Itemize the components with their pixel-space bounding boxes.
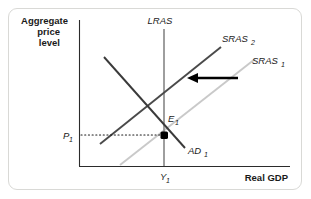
sras2-curve [100, 47, 221, 144]
sras2-label: SRAS [222, 33, 249, 44]
ad1-curve [104, 57, 185, 148]
ad1-label: AD [187, 145, 201, 156]
lras-label: LRAS [148, 15, 173, 26]
as-ad-diagram: Aggregate price level LRAS SRAS 2 SRAS 1… [0, 0, 311, 199]
y-axis-title-line3: level [39, 37, 60, 48]
sras2-label-group: SRAS 2 [222, 33, 255, 46]
equilibrium-label: E [168, 113, 175, 124]
sras2-label-subscript: 2 [250, 39, 255, 46]
x-tick-label-subscript: 1 [166, 177, 170, 184]
y-tick-label-group: P 1 [63, 130, 73, 143]
y-axis-title-line1: Aggregate [21, 15, 68, 26]
ad1-label-group: AD 1 [187, 145, 208, 158]
y-tick-label-subscript: 1 [69, 136, 73, 143]
equilibrium-label-subscript: 1 [175, 119, 179, 126]
equilibrium-point [161, 132, 169, 140]
sras1-label-group: SRAS 1 [252, 55, 285, 68]
y-axis-title-line2: price [37, 26, 60, 37]
shift-arrow [187, 73, 238, 83]
sras1-label: SRAS [252, 55, 279, 66]
x-tick-label-group: Y 1 [160, 171, 170, 184]
sras1-label-subscript: 1 [281, 61, 285, 68]
x-axis-title: Real GDP [245, 172, 289, 183]
ad1-label-subscript: 1 [204, 151, 208, 158]
